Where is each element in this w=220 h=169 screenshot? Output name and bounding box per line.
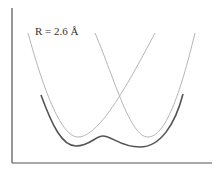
chart-canvas (0, 0, 220, 169)
annotation-label: R = 2.6 Å (35, 25, 78, 37)
series-left-well (28, 33, 155, 137)
series-double-well (41, 94, 183, 147)
series-right-well (95, 33, 195, 137)
